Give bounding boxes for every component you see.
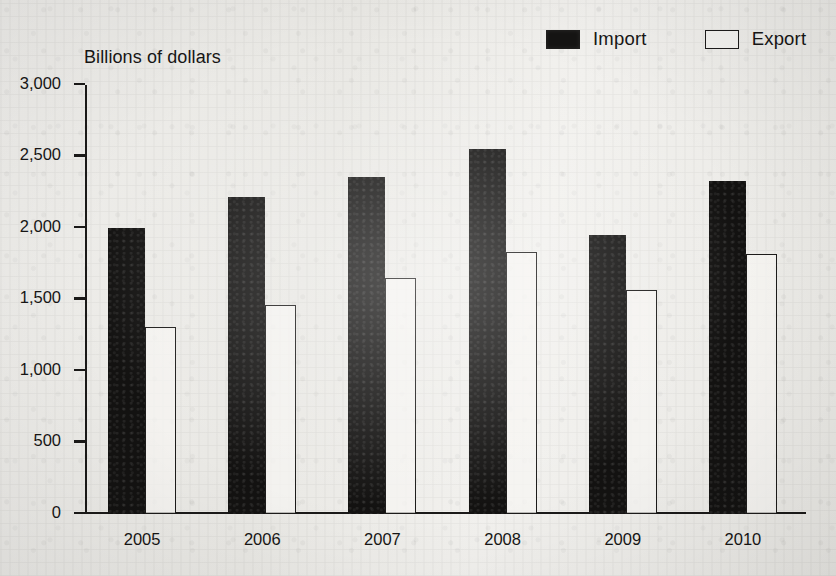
x-axis-label-2006: 2006 <box>244 530 281 549</box>
x-axis-label-2007: 2007 <box>364 530 401 549</box>
bar-export-2008 <box>506 252 537 514</box>
y-axis-title: Billions of dollars <box>84 47 221 68</box>
x-axis-label-2005: 2005 <box>124 530 161 549</box>
y-axis-tick: 1,500 <box>74 297 85 299</box>
y-axis-tick: 2,000 <box>74 226 85 228</box>
y-axis-tick: 1,000 <box>74 369 85 371</box>
legend-label-export: Export <box>752 28 807 50</box>
y-axis-tick: 2,500 <box>74 154 85 156</box>
bar-import-2005 <box>108 228 145 514</box>
legend-entry-import: Import <box>546 28 647 50</box>
bar-chart-figure: Import Export Billions of dollars 05001,… <box>0 0 836 576</box>
bar-export-2007 <box>385 278 416 514</box>
legend-swatch-import-icon <box>546 30 580 49</box>
bar-import-2007 <box>348 177 385 514</box>
bar-import-2010 <box>709 181 746 514</box>
y-axis-tick-label: 0 <box>52 502 61 521</box>
y-axis-tick-label: 3,000 <box>20 73 61 92</box>
x-axis-label-2010: 2010 <box>725 530 762 549</box>
bar-import-2006 <box>228 197 265 514</box>
y-axis-tick-label: 1,000 <box>20 359 61 378</box>
legend-swatch-export-icon <box>705 30 739 49</box>
x-axis-label-2008: 2008 <box>484 530 521 549</box>
bar-export-2005 <box>145 327 176 514</box>
bar-export-2006 <box>265 305 296 514</box>
bar-import-2008 <box>469 149 506 514</box>
plot-area: 05001,0001,5002,0002,5003,000 2005200620… <box>85 85 806 514</box>
bar-import-2009 <box>589 235 626 514</box>
bar-export-2009 <box>626 290 657 514</box>
y-axis-tick: 0 <box>74 512 85 514</box>
y-axis-tick-label: 500 <box>33 431 61 450</box>
y-axis-tick: 3,000 <box>74 83 85 85</box>
bars-layer <box>85 85 806 514</box>
y-axis-tick: 500 <box>74 440 85 442</box>
chart-legend: Import Export <box>546 28 806 50</box>
x-axis-label-2009: 2009 <box>604 530 641 549</box>
y-axis-tick-label: 2,500 <box>20 145 61 164</box>
legend-label-import: Import <box>593 28 647 50</box>
y-axis-tick-label: 1,500 <box>20 288 61 307</box>
y-axis-tick-label: 2,000 <box>20 216 61 235</box>
bar-export-2010 <box>746 254 777 514</box>
legend-entry-export: Export <box>705 28 807 50</box>
